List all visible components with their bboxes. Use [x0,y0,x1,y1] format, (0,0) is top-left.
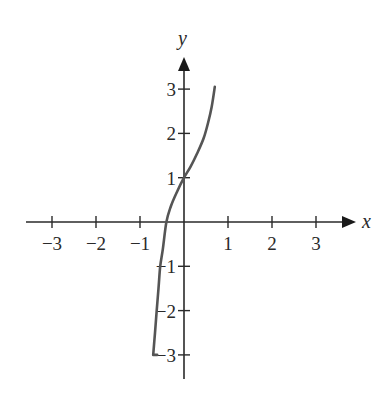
chart-plot: −3−2−1123−3−2−1123 x y [0,0,391,407]
y-tick-label: 2 [167,123,177,144]
y-tick-label: 1 [167,168,177,189]
y-axis-label: y [176,27,187,50]
x-tick-label: −3 [42,233,62,254]
x-tick-label: 2 [267,233,277,254]
x-tick-label: 3 [311,233,321,254]
axes [26,66,346,379]
y-tick-label: −3 [156,345,176,366]
x-axis-arrow-icon [342,216,356,228]
x-tick-label: −1 [130,233,150,254]
y-tick-label: 3 [167,79,177,100]
y-tick-label: −2 [156,301,176,322]
axis-arrows [178,57,356,228]
x-tick-label: −2 [86,233,106,254]
x-axis-label: x [361,210,371,232]
y-axis-arrow-icon [178,57,190,71]
x-tick-label: 1 [223,233,233,254]
